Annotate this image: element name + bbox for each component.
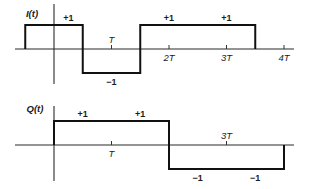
i-tick-label: 3T bbox=[221, 52, 233, 63]
q-level-label: +1 bbox=[135, 109, 145, 119]
i-level-label: +1 bbox=[221, 13, 231, 23]
i-level-label: −1 bbox=[106, 77, 116, 87]
i-level-label: +1 bbox=[164, 13, 174, 23]
i-axis-label: I(t) bbox=[26, 8, 38, 19]
i-tick-label: 4T bbox=[278, 52, 290, 63]
i-tick-label: 2T bbox=[162, 52, 175, 63]
i-tick-label: T bbox=[109, 34, 116, 45]
q-level-label: −1 bbox=[250, 173, 260, 183]
i-level-label: +1 bbox=[63, 13, 73, 23]
q-channel-panel: Q(t) T3T +1+1−1−1 bbox=[15, 103, 294, 183]
q-axis-label: Q(t) bbox=[27, 103, 44, 114]
q-tick-label: T bbox=[109, 148, 116, 159]
q-tick-label: 3T bbox=[221, 130, 233, 141]
q-level-label: −1 bbox=[193, 173, 203, 183]
i-channel-panel: I(t) T2T3T4T +1−1+1+1 bbox=[15, 4, 294, 87]
iq-waveform-diagram: I(t) T2T3T4T +1−1+1+1 Q(t) T3T +1+1−1−1 bbox=[0, 0, 309, 189]
q-level-label: +1 bbox=[78, 109, 88, 119]
